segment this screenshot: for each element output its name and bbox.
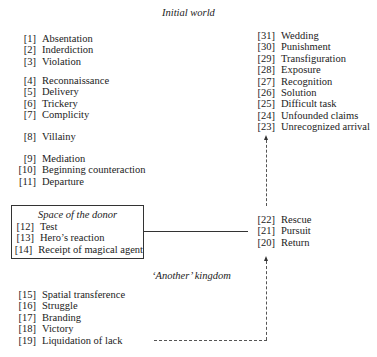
list-item: [27]Recognition [255, 76, 370, 87]
section-heading-another-kingdom: ‘Another’ kingdom [152, 270, 231, 281]
list-item: [4]Reconnaissance [16, 75, 109, 86]
list-item: [9]Mediation [16, 153, 146, 164]
list-item: [18]Victory [16, 323, 125, 334]
list-item: [15]Spatial transference [16, 289, 125, 300]
list-item: [5]Delivery [16, 86, 109, 97]
list-item: [21]Pursuit [255, 225, 311, 236]
left-list-group1: [1]Absentation [2]Inderdiction [3]Violat… [16, 33, 93, 67]
left-list-kingdom: [15]Spatial transference [16]Struggle [1… [16, 289, 125, 346]
dashed-connector-lower [266, 261, 267, 340]
list-item: [14]Receipt of magical agent [14, 244, 143, 255]
list-item: [7]Complicity [16, 109, 109, 120]
list-item: [20]Return [255, 237, 311, 248]
section-heading-initial-world: Initial world [162, 7, 215, 18]
dashed-connector-upper [266, 140, 267, 206]
list-item: [6]Trickery [16, 98, 109, 109]
list-item: [13]Hero’s reaction [14, 232, 143, 243]
list-item: [30]Punishment [255, 41, 370, 52]
list-item: [17]Branding [16, 312, 125, 323]
right-list-top: [31]Wedding [30]Punishment [29]Transfigu… [255, 30, 370, 133]
list-item: [22]Rescue [255, 214, 311, 225]
left-list-group4: [9]Mediation [10]Beginning counteraction… [16, 153, 146, 187]
left-list-group3: [8]Villainy [16, 131, 76, 142]
list-item: [1]Absentation [16, 33, 93, 44]
list-item: [11]Departure [16, 176, 146, 187]
list-item: [25]Difficult task [255, 98, 370, 109]
list-item: [10]Beginning counteraction [16, 164, 146, 175]
list-item: [28]Exposure [255, 64, 370, 75]
section-heading-donor: Space of the donor [12, 209, 143, 220]
list-item: [2]Inderdiction [16, 44, 93, 55]
list-item: [8]Villainy [16, 131, 76, 142]
list-item: [26]Solution [255, 87, 370, 98]
list-item: [31]Wedding [255, 30, 370, 41]
space-of-donor-box: Space of the donor [12]Test [13]Hero’s r… [11, 205, 144, 259]
list-item: [29]Transfiguration [255, 53, 370, 64]
list-item: [12]Test [14, 221, 143, 232]
list-item: [23]Unrecognized arrival [255, 121, 370, 132]
dashed-connector-horizontal [154, 340, 267, 341]
list-item: [16]Struggle [16, 300, 125, 311]
connector-line [144, 231, 248, 232]
donor-list: [12]Test [13]Hero’s reaction [14]Receipt… [14, 221, 143, 255]
list-item: [3]Violation [16, 56, 93, 67]
list-item: [19]Liquidation of lack [16, 335, 125, 346]
left-list-group2: [4]Reconnaissance [5]Delivery [6]Tricker… [16, 75, 109, 121]
right-list-middle: [22]Rescue [21]Pursuit [20]Return [255, 214, 311, 248]
list-item: [24]Unfounded claims [255, 110, 370, 121]
